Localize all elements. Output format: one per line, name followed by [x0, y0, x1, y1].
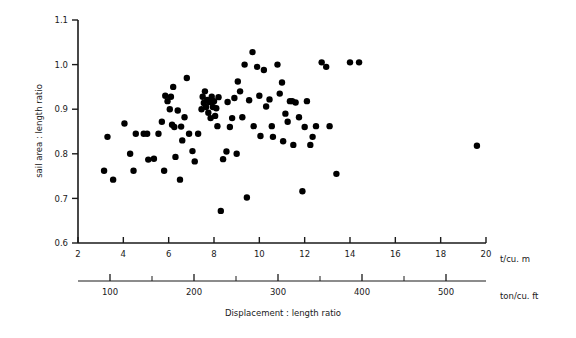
- data-point: [189, 148, 195, 154]
- data-point: [241, 61, 247, 67]
- data-point: [235, 78, 241, 84]
- data-point: [347, 59, 353, 65]
- data-point: [212, 113, 218, 119]
- data-point: [261, 67, 267, 73]
- data-point: [229, 115, 235, 121]
- data-point: [263, 103, 269, 109]
- x-axis-label: Displacement : length ratio: [225, 308, 341, 318]
- x-axis-tick-labels-primary: 2468101214161820: [75, 249, 491, 259]
- x-axis-tick-labels-secondary: 100200300400500: [102, 287, 454, 297]
- data-point: [256, 93, 262, 99]
- x-tick-label: 20: [481, 249, 492, 259]
- x-tick-label: 4: [121, 249, 126, 259]
- x2-tick-label: 100: [102, 287, 118, 297]
- x-tick-label: 18: [435, 249, 446, 259]
- data-point: [299, 188, 305, 194]
- data-point: [192, 158, 198, 164]
- chart-canvas: 0.60.70.80.91.01.1 2468101214161820 1002…: [0, 0, 576, 338]
- data-point: [130, 168, 136, 174]
- x2-tick-label: 500: [438, 287, 454, 297]
- data-point: [213, 105, 219, 111]
- data-point: [175, 107, 181, 113]
- data-point: [270, 134, 276, 140]
- data-point: [301, 124, 307, 130]
- y-axis-ticks: [72, 20, 78, 243]
- data-point: [104, 134, 110, 140]
- y-axis-label: sail area : length ratio: [34, 84, 44, 178]
- data-point: [239, 114, 245, 120]
- data-points-layer: [101, 49, 480, 214]
- y-tick-label: 1.0: [54, 60, 68, 70]
- data-point: [244, 194, 250, 200]
- data-point: [127, 151, 133, 157]
- data-point: [284, 118, 290, 124]
- data-point: [179, 137, 185, 143]
- scatter-chart-figure: 0.60.70.80.91.01.1 2468101214161820 1002…: [0, 0, 576, 338]
- data-point: [323, 64, 329, 70]
- data-point: [282, 110, 288, 116]
- data-point: [277, 90, 283, 96]
- y-tick-label: 1.1: [54, 15, 68, 25]
- secondary-unit-label: ton/cu. ft: [500, 291, 539, 301]
- data-point: [326, 123, 332, 129]
- x-axis-ticks-primary: [78, 237, 486, 243]
- data-point: [333, 171, 339, 177]
- data-point: [214, 123, 220, 129]
- data-point: [237, 88, 243, 94]
- x-tick-label: 8: [211, 249, 216, 259]
- data-point: [144, 131, 150, 137]
- x-tick-label: 12: [299, 249, 310, 259]
- data-point: [279, 79, 285, 85]
- x-tick-label: 6: [166, 249, 171, 259]
- data-point: [167, 106, 173, 112]
- x-tick-label: 2: [75, 249, 80, 259]
- data-point: [220, 156, 226, 162]
- data-point: [227, 124, 233, 130]
- data-point: [224, 99, 230, 105]
- data-point: [155, 131, 161, 137]
- data-point: [280, 138, 286, 144]
- data-point: [231, 95, 237, 101]
- x-axis-ticks-secondary: [110, 274, 446, 281]
- data-point: [101, 168, 107, 174]
- x2-tick-label: 200: [186, 287, 202, 297]
- data-point: [266, 96, 272, 102]
- data-point: [233, 151, 239, 157]
- data-point: [254, 64, 260, 70]
- data-point: [269, 123, 275, 129]
- data-point: [274, 61, 280, 67]
- data-point: [110, 176, 116, 182]
- y-axis-tick-labels: 0.60.70.80.91.01.1: [54, 15, 68, 248]
- x2-tick-label: 400: [354, 287, 370, 297]
- data-point: [246, 97, 252, 103]
- data-point: [171, 124, 177, 130]
- data-point: [218, 208, 224, 214]
- y-tick-label: 0.9: [54, 104, 68, 114]
- data-point: [145, 156, 151, 162]
- data-point: [181, 114, 187, 120]
- data-point: [170, 84, 176, 90]
- data-point: [307, 142, 313, 148]
- data-point: [161, 168, 167, 174]
- data-point: [474, 143, 480, 149]
- data-point: [313, 123, 319, 129]
- data-point: [168, 94, 174, 100]
- y-tick-label: 0.6: [54, 238, 68, 248]
- x-tick-label: 16: [390, 249, 401, 259]
- data-point: [184, 75, 190, 81]
- data-point: [290, 142, 296, 148]
- data-point: [356, 59, 362, 65]
- data-point: [215, 94, 221, 100]
- data-point: [186, 131, 192, 137]
- data-point: [159, 118, 165, 124]
- x-tick-label: 14: [345, 249, 356, 259]
- data-point: [296, 114, 302, 120]
- x-tick-label: 10: [254, 249, 265, 259]
- data-point: [151, 156, 157, 162]
- data-point: [121, 120, 127, 126]
- data-point: [172, 154, 178, 160]
- data-point: [202, 88, 208, 94]
- data-point: [249, 49, 255, 55]
- primary-unit-label: t/cu. m: [500, 254, 530, 264]
- data-point: [133, 131, 139, 137]
